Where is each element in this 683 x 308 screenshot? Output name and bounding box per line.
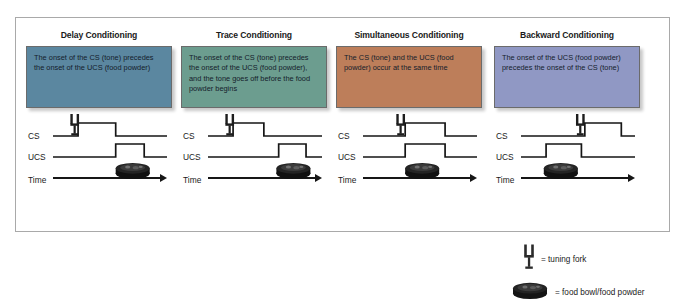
time-axis-label: Time — [28, 175, 47, 185]
food-bowl-icon — [544, 163, 578, 179]
panel-description-text: The onset of the UCS (food powder) prece… — [502, 53, 632, 74]
ucs-axis-label: UCS — [183, 152, 201, 162]
cs-signal-trace — [208, 123, 322, 136]
panel-title: Backward Conditioning — [494, 28, 640, 42]
food-bowl-icon — [276, 163, 310, 179]
ucs-signal-trace — [208, 144, 322, 157]
timing-diagram: CSUCSTime — [26, 110, 172, 188]
conditioning-panel: Simultaneous ConditioningThe CS (tone) a… — [336, 28, 482, 108]
cs-axis-label: CS — [28, 131, 40, 141]
conditioning-panel: Backward ConditioningThe onset of the UC… — [494, 28, 640, 108]
tuning-fork-icon — [576, 114, 585, 135]
tuning-fork-icon — [396, 114, 405, 135]
ucs-signal-trace — [53, 144, 167, 157]
panel-description-text: The onset of the CS (tone) precedes the … — [34, 53, 164, 74]
legend-item-food-bowl: = food bowl/food powder — [510, 280, 644, 304]
cs-signal-trace — [363, 123, 477, 136]
cs-axis-label: CS — [183, 131, 195, 141]
timing-diagram: CSUCSTime — [181, 110, 327, 188]
legend-label-tuning-fork: = tuning fork — [541, 255, 586, 264]
ucs-axis-label: UCS — [496, 152, 514, 162]
conditioning-panels: Delay ConditioningThe onset of the CS (t… — [16, 18, 669, 231]
time-axis-arrowhead — [628, 174, 635, 182]
legend-item-tuning-fork: = tuning fork — [522, 244, 586, 274]
panel-title: Simultaneous Conditioning — [336, 28, 482, 42]
diagram-legend: = tuning fork = food bowl/food powder — [500, 240, 683, 308]
tuning-fork-icon — [522, 244, 536, 274]
panel-description-box: The onset of the UCS (food powder) prece… — [494, 46, 640, 108]
panel-description-box: The onset of the CS (tone) precedes the … — [181, 46, 327, 108]
food-bowl-icon — [510, 280, 550, 304]
ucs-axis-label: UCS — [28, 152, 46, 162]
conditioning-panel: Trace ConditioningThe onset of the CS (t… — [181, 28, 327, 108]
timing-diagram: CSUCSTime — [336, 110, 482, 188]
cs-axis-label: CS — [338, 131, 350, 141]
ucs-signal-trace — [363, 144, 477, 157]
panel-description-text: The onset of the CS (tone) precedes the … — [189, 53, 319, 95]
time-axis-label: Time — [183, 175, 202, 185]
timing-diagram: CSUCSTime — [494, 110, 640, 188]
time-axis-label: Time — [338, 175, 357, 185]
ucs-axis-label: UCS — [338, 152, 356, 162]
panel-title: Trace Conditioning — [181, 28, 327, 42]
panel-description-box: The CS (tone) and the UCS (food powder) … — [336, 46, 482, 108]
panel-title: Delay Conditioning — [26, 28, 172, 42]
food-bowl-icon — [116, 163, 150, 179]
conditioning-panel: Delay ConditioningThe onset of the CS (t… — [26, 28, 172, 108]
legend-label-food-bowl: = food bowl/food powder — [555, 288, 644, 297]
time-axis-label: Time — [496, 175, 515, 185]
panel-description-text: The CS (tone) and the UCS (food powder) … — [344, 53, 474, 74]
ucs-signal-trace — [521, 144, 635, 157]
diagram-frame: Delay ConditioningThe onset of the CS (t… — [15, 17, 670, 232]
cs-axis-label: CS — [496, 131, 508, 141]
time-axis-arrowhead — [470, 174, 477, 182]
food-bowl-icon — [405, 163, 439, 179]
panel-description-box: The onset of the CS (tone) precedes the … — [26, 46, 172, 108]
time-axis-arrowhead — [160, 174, 167, 182]
time-axis-arrowhead — [315, 174, 322, 182]
cs-signal-trace — [53, 123, 167, 136]
